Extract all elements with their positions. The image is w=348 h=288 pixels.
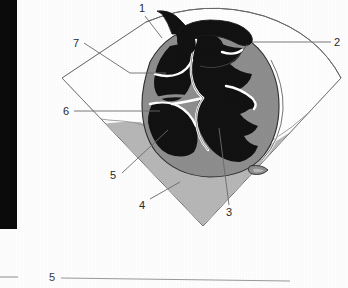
ultrasound-illustration [0,0,348,288]
caption-rules [0,277,290,281]
label-7: 7 [73,38,79,49]
label-2: 2 [334,37,340,48]
label-5: 5 [110,170,116,181]
label-3: 3 [226,207,232,218]
label-6: 6 [63,106,69,117]
caption-number: 5 [49,272,55,283]
caption-rule-main [61,278,290,281]
figure-canvas: 1 2 3 4 5 6 7 5 [0,0,348,288]
label-4: 4 [139,200,145,211]
label-1: 1 [139,3,145,14]
